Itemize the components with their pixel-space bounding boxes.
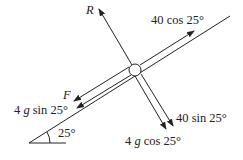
arrow-4gsin25: [77, 75, 131, 108]
label-angle-text: 25°: [58, 126, 76, 140]
angle-arc: [47, 132, 50, 143]
label-4gsin25-pre: 4: [14, 103, 23, 117]
label-R-text: R: [86, 3, 94, 17]
label-4gsin25-rest: sin 25°: [30, 103, 68, 117]
label-40cos25: 40 cos 25°: [151, 14, 204, 27]
label-F-text: F: [63, 88, 71, 102]
label-4gsin25: 4 g sin 25°: [14, 104, 68, 117]
arrow-40sin25: [141, 74, 173, 126]
arrow-R: [99, 9, 132, 65]
arrow-40cos25: [140, 31, 194, 65]
label-40sin25-text: 40 sin 25°: [176, 111, 227, 125]
label-4gcos25-pre: 4: [125, 134, 134, 148]
label-4gcos25-rest: cos 25°: [141, 134, 181, 148]
label-angle: 25°: [58, 127, 76, 140]
particle: [129, 64, 141, 76]
label-R: R: [86, 4, 94, 17]
label-4gcos25: 4 g cos 25°: [125, 135, 181, 148]
arrow-F: [74, 67, 129, 101]
label-40cos25-text: 40 cos 25°: [151, 13, 204, 27]
label-40sin25: 40 sin 25°: [176, 112, 227, 125]
force-diagram: [0, 0, 243, 160]
label-F: F: [63, 89, 71, 102]
arrow-4gcos25: [135, 76, 166, 129]
